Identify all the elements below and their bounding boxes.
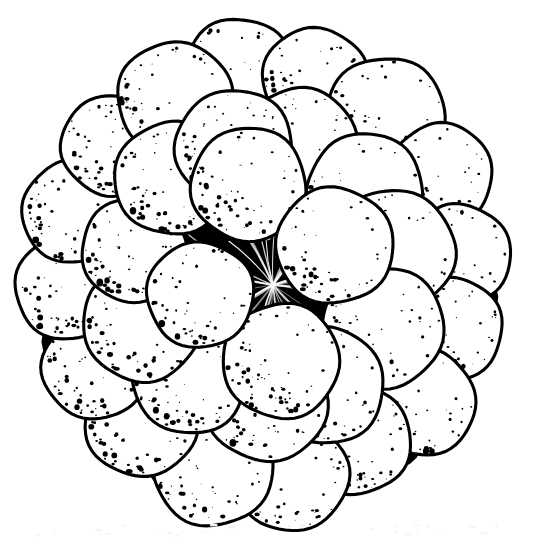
aggregate-fruit-illustration: Aggregate fruit viewed from above (0, 0, 535, 540)
drupelet (276, 187, 393, 303)
drupelet (146, 242, 253, 347)
illustration-canvas: Aggregate fruit viewed from above (0, 0, 535, 540)
